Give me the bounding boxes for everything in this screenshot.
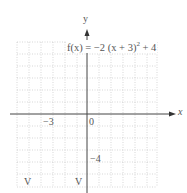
y-axis-label: y [83,13,88,24]
tick-label-origin: 0 [89,116,94,127]
function-label: f(x) = −2 (x + 3)2 + 4 [66,40,157,53]
tick-label-neg3: −3 [43,116,54,127]
coordinate-plane [0,0,187,193]
marker-v-right: V [75,176,82,187]
marker-v-left: V [24,176,31,187]
tick-label-neg4: −4 [90,153,101,164]
y-axis-arrow-icon [85,29,90,36]
x-axis-label: x [178,106,182,117]
x-axis-arrow-icon [169,112,176,117]
